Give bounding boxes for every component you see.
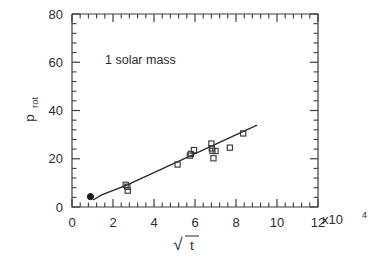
plot-annotation: 1 solar mass [105,53,176,67]
y-tick-label: 20 [49,151,63,166]
y-tick-label: 60 [49,55,63,70]
y-axis-title-sub: rot [29,97,40,108]
data-point-square [211,156,216,161]
x-tick-label: 2 [109,215,116,230]
axis-frame [72,14,318,207]
x-axis-title-symbol: √ [173,235,183,254]
y-tick-label: 0 [56,200,63,215]
data-point-square [227,145,232,150]
x-tick-label: 0 [68,215,75,230]
x-tick-label: 6 [191,215,198,230]
x-tick-label: 10 [270,215,284,230]
x-tick-label: 4 [150,215,157,230]
x-axis-tick-labels: 024681012 [68,215,325,230]
y-tick-label: 40 [49,103,63,118]
x-axis-ticks [72,14,318,207]
x-exponent-mantissa: x10 [322,212,343,227]
chart-svg: 020406080 024681012 x10 4 √ t p rot 1 so… [0,0,384,258]
x-exponent-power: 4 [362,210,367,220]
x-axis-exponent: x10 4 [322,210,367,227]
data-point-filled [87,194,93,200]
y-axis-title-main: p [22,114,37,122]
x-axis-title-root: t [190,238,194,253]
y-axis-title: p rot [22,97,40,122]
y-axis-ticks [72,14,318,207]
x-tick-label: 8 [232,215,239,230]
y-tick-label: 80 [49,7,63,22]
x-axis-title: √ t [173,235,199,254]
figure-container: 020406080 024681012 x10 4 √ t p rot 1 so… [0,0,384,258]
plot-border [72,14,318,207]
y-axis-tick-labels: 020406080 [49,7,63,215]
